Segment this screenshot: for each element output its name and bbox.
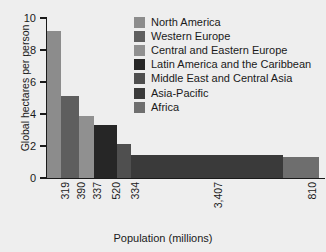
legend-item: Asia-Pacific xyxy=(134,86,311,100)
legend-item-label: Middle East and Central Asia xyxy=(151,73,292,84)
bar-north-america xyxy=(47,31,61,178)
legend-swatch-icon xyxy=(134,45,145,56)
legend-item-label: North America xyxy=(151,17,221,28)
x-tick-label: 520 xyxy=(110,182,122,200)
legend-swatch-icon xyxy=(134,59,145,70)
x-axis-title: Population (millions) xyxy=(0,232,326,244)
legend-item-label: Central and Eastern Europe xyxy=(151,45,287,56)
legend-swatch-icon xyxy=(134,73,145,84)
bar-central-and-eastern-europe xyxy=(79,116,94,178)
bar-asia-pacific xyxy=(131,155,282,178)
bar-western-europe xyxy=(61,96,78,178)
legend-swatch-icon xyxy=(134,17,145,28)
legend-item: Central and Eastern Europe xyxy=(134,43,311,57)
legend-item: Africa xyxy=(134,100,311,114)
bar-latin-america-and-the-caribbean xyxy=(94,125,117,178)
legend-item-label: Western Europe xyxy=(151,31,230,42)
legend-item: Western Europe xyxy=(134,29,311,43)
x-tick-label: 337 xyxy=(91,182,103,200)
legend-item: Latin America and the Caribbean xyxy=(134,58,311,72)
bar-middle-east-and-central-asia xyxy=(117,144,132,178)
legend-item-label: Asia-Pacific xyxy=(151,88,208,99)
legend-item: North America xyxy=(134,15,311,29)
chart-legend: North AmericaWestern EuropeCentral and E… xyxy=(134,15,311,114)
x-tick-label: 810 xyxy=(306,182,318,200)
x-tick-label: 390 xyxy=(75,182,87,200)
bar-africa xyxy=(283,157,319,178)
x-axis-line xyxy=(40,178,325,179)
x-tick-label: 334 xyxy=(129,182,141,200)
legend-swatch-icon xyxy=(134,102,145,113)
x-tick-label: 319 xyxy=(59,182,71,200)
legend-item-label: Africa xyxy=(151,102,179,113)
legend-item-label: Latin America and the Caribbean xyxy=(151,59,311,70)
chart-figure: Global hectares per person 0246810 31939… xyxy=(0,0,326,252)
x-tick-label: 3,407 xyxy=(212,182,224,208)
legend-item: Middle East and Central Asia xyxy=(134,72,311,86)
legend-swatch-icon xyxy=(134,31,145,42)
legend-swatch-icon xyxy=(134,88,145,99)
y-axis-title: Global hectares per person xyxy=(19,0,31,178)
